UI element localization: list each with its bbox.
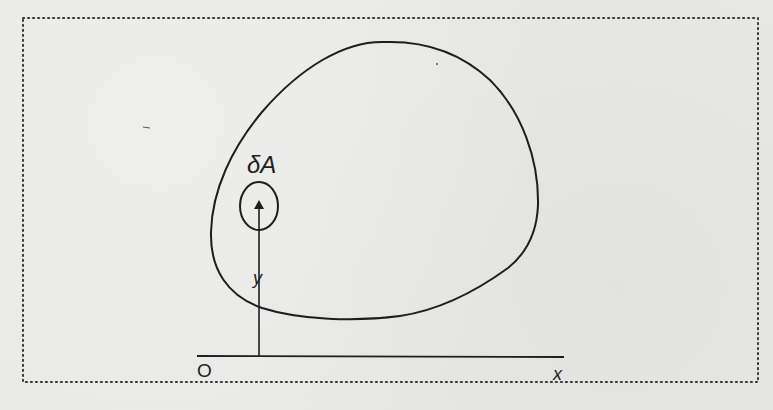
paper-speck bbox=[436, 63, 438, 65]
y-distance-label: y bbox=[253, 269, 262, 287]
x-axis bbox=[197, 356, 564, 357]
diagram-canvas bbox=[0, 0, 773, 410]
area-element-label: δA bbox=[247, 153, 276, 177]
arrowhead-icon bbox=[254, 200, 264, 209]
x-axis-label: x bbox=[553, 365, 562, 383]
origin-label: O bbox=[197, 361, 212, 380]
paper-speck bbox=[143, 127, 150, 128]
dotted-frame bbox=[23, 18, 758, 382]
figure: δA y O x bbox=[0, 0, 773, 410]
